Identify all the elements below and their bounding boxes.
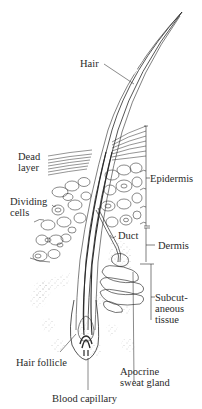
dead-layer-lines	[48, 150, 92, 175]
label-hair-follicle: Hair follicle	[16, 357, 67, 368]
label-blood-capillary: Blood capillary	[52, 393, 117, 404]
dead-layer-lines-right	[112, 126, 146, 160]
label-dividing-cells: Dividing cells	[10, 196, 47, 218]
label-dead-layer: Dead layer	[18, 151, 40, 173]
label-subcutaneous-tissue: Subcut- aneous tissue	[155, 292, 188, 325]
label-hair: Hair	[80, 58, 99, 69]
label-duct: Duct	[118, 230, 138, 241]
layer-brackets	[140, 126, 155, 320]
skin-hair-diagram: Hair Dead layer Epidermis Dividing cells…	[0, 0, 202, 409]
label-apocrine-sweat-gland: Apocrine sweat gland	[120, 366, 170, 388]
label-epidermis: Epidermis	[150, 173, 193, 184]
label-dermis: Dermis	[158, 240, 189, 251]
